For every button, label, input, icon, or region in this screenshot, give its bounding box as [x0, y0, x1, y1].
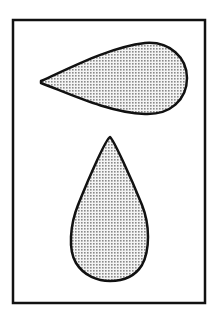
vertical-teardrop-shape — [71, 137, 148, 281]
teardrop-figure — [0, 0, 218, 322]
horizontal-teardrop-shape — [41, 43, 187, 114]
figure-canvas — [0, 0, 218, 322]
